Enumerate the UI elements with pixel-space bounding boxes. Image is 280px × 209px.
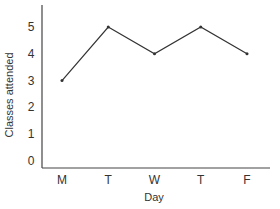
x-tick-label: T <box>197 173 205 187</box>
y-tick-label: 4 <box>28 47 35 61</box>
line-chart: 012345 MTWTF Day Classes attended <box>0 0 280 209</box>
x-axis-label: Day <box>144 191 164 203</box>
x-tick-label: W <box>149 173 161 187</box>
data-point <box>246 52 249 55</box>
y-tick-label: 0 <box>28 154 35 168</box>
y-axis-label: Classes attended <box>3 53 15 138</box>
x-tick-labels: MTWTF <box>57 173 251 187</box>
y-tick-label: 5 <box>28 20 35 34</box>
y-tick-label: 3 <box>28 74 35 88</box>
data-points <box>61 26 249 83</box>
data-point <box>153 52 156 55</box>
x-tick-label: T <box>105 173 113 187</box>
x-tick-label: M <box>57 173 67 187</box>
data-point <box>61 79 64 82</box>
data-point <box>107 26 110 29</box>
y-tick-labels: 012345 <box>28 20 35 168</box>
x-tick-label: F <box>243 173 250 187</box>
y-tick-label: 1 <box>28 127 35 141</box>
data-point <box>199 26 202 29</box>
y-tick-label: 2 <box>28 100 35 114</box>
